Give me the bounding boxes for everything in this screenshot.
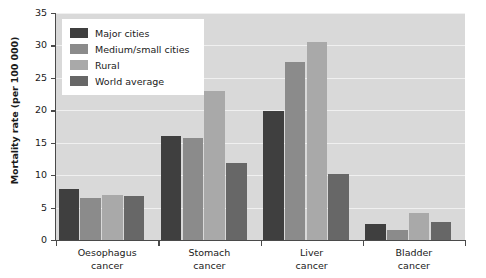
bar <box>124 196 145 240</box>
bar-chart: Mortality rate (per 100 000) 05101520253… <box>0 0 486 278</box>
x-axis-separator <box>56 240 57 246</box>
x-axis-category-label-line: Stomach <box>158 247 260 260</box>
y-axis-tick-mark <box>51 208 56 209</box>
gridline <box>56 175 465 176</box>
legend-label: Medium/small cities <box>95 44 190 55</box>
bar <box>226 163 247 240</box>
x-axis-category-label-line: Bladder <box>363 247 465 260</box>
x-axis-category-label: Oesophaguscancer <box>56 247 158 272</box>
bar <box>285 62 306 240</box>
bar <box>59 189 80 240</box>
bar <box>183 138 204 240</box>
y-axis-tick-mark <box>51 175 56 176</box>
chart-legend: Major citiesMedium/small citiesRuralWorl… <box>62 19 204 95</box>
legend-item: Major cities <box>70 25 190 41</box>
y-axis-title: Mortality rate (per 100 000) <box>9 11 20 211</box>
x-axis-category-label: Stomachcancer <box>158 247 260 272</box>
x-axis-category-label-line: cancer <box>56 260 158 273</box>
y-axis-tick-mark <box>51 110 56 111</box>
legend-swatch <box>70 60 88 70</box>
legend-label: Rural <box>95 60 120 71</box>
y-axis-tick-label: 5 <box>41 202 47 213</box>
bar <box>204 91 225 240</box>
y-axis-tick-label: 20 <box>35 104 47 115</box>
y-axis-tick-label: 15 <box>35 137 47 148</box>
legend-item: Rural <box>70 57 190 73</box>
bar <box>263 111 284 240</box>
y-axis-tick-label: 25 <box>35 72 47 83</box>
legend-swatch <box>70 28 88 38</box>
bar <box>387 230 408 240</box>
x-axis-separator <box>465 240 466 246</box>
y-axis-tick-mark <box>51 143 56 144</box>
bar <box>307 42 328 240</box>
legend-swatch <box>70 44 88 54</box>
y-axis-tick-label: 0 <box>41 234 47 245</box>
bar <box>365 224 386 240</box>
y-axis-tick-label: 30 <box>35 39 47 50</box>
y-axis-tick-label: 10 <box>35 169 47 180</box>
gridline <box>56 110 465 111</box>
x-axis-category-label: Livercancer <box>261 247 363 272</box>
legend-swatch <box>70 76 88 86</box>
legend-item: Medium/small cities <box>70 41 190 57</box>
x-axis-category-label-line: cancer <box>158 260 260 273</box>
legend-label: World average <box>95 76 164 87</box>
x-axis-category-label-line: Oesophagus <box>56 247 158 260</box>
y-axis-tick-label: 35 <box>35 7 47 18</box>
bar <box>409 213 430 240</box>
x-axis-category-label-line: cancer <box>363 260 465 273</box>
y-axis-tick-mark <box>51 78 56 79</box>
x-axis-separator <box>261 240 262 246</box>
x-axis-category-label: Bladdercancer <box>363 247 465 272</box>
gridline <box>56 13 465 14</box>
legend-item: World average <box>70 73 190 89</box>
legend-label: Major cities <box>95 28 149 39</box>
bar <box>102 195 123 240</box>
x-axis-separator <box>363 240 364 246</box>
y-axis-tick-mark <box>51 45 56 46</box>
x-axis-category-label-line: cancer <box>261 260 363 273</box>
x-axis-separator <box>158 240 159 246</box>
bar <box>161 136 182 240</box>
bar <box>80 198 101 240</box>
y-axis-tick-mark <box>51 13 56 14</box>
bar <box>328 174 349 240</box>
x-axis-category-label-line: Liver <box>261 247 363 260</box>
gridline <box>56 143 465 144</box>
bar <box>431 222 452 240</box>
